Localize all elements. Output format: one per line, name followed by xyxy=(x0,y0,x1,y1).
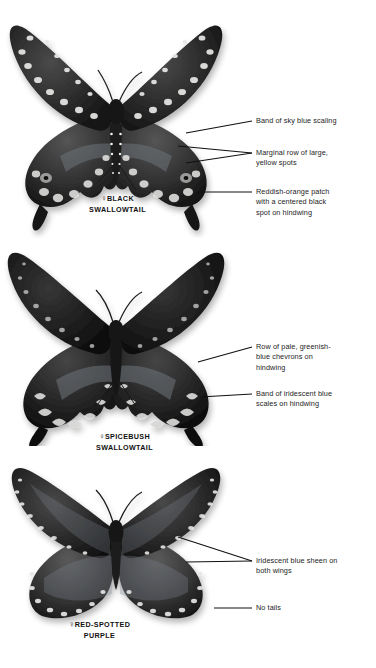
tail-left xyxy=(29,426,48,446)
thorax xyxy=(108,320,124,344)
species-name-line1: SPICEBUSH xyxy=(105,432,150,441)
butterfly-identification-plate: ♀BLACK SWALLOWTAIL xyxy=(0,0,376,668)
abdomen xyxy=(111,542,121,590)
callout-blue-sheen: Iridescent blue sheen on both wings xyxy=(256,556,374,577)
caption-spicebush-swallowtail: ♀SPICEBUSH SWALLOWTAIL xyxy=(62,432,187,453)
tail-left xyxy=(32,204,48,231)
tail-right xyxy=(184,204,200,231)
hindwing-orange-patch-right xyxy=(180,173,192,183)
callout-no-tails: No tails xyxy=(256,603,374,613)
thorax xyxy=(109,520,124,544)
callout-chevrons: Row of pale, greenish- blue chevrons on … xyxy=(256,342,374,373)
hindwing-orange-patch-left xyxy=(40,173,52,183)
caption-red-spotted-purple: ♀RED-SPOTTED PURPLE xyxy=(32,620,167,641)
species-name-line1: BLACK xyxy=(107,194,134,203)
callout-iridescent-band: Band of iridescent blue scales on hindwi… xyxy=(256,389,374,410)
callout-yellow-spots: Marginal row of large, yellow spots xyxy=(256,148,374,169)
callout-orange-patch: Reddish-orange patch with a centered bla… xyxy=(256,187,374,218)
specimen-spicebush-swallowtail xyxy=(0,240,232,446)
species-name-line2: SWALLOWTAIL xyxy=(89,205,146,214)
red-spotted-purple-body-and-wings xyxy=(12,468,221,618)
species-name-line2: SWALLOWTAIL xyxy=(96,443,153,452)
species-name-line1: RED-SPOTTED xyxy=(75,620,130,629)
thorax xyxy=(108,99,124,125)
species-name-line2: PURPLE xyxy=(84,631,115,640)
antenna-left xyxy=(96,490,113,522)
spicebush-body-and-wings xyxy=(8,253,225,446)
callout-blue-scaling: Band of sky blue scaling xyxy=(256,116,374,126)
specimen-red-spotted-purple xyxy=(0,458,232,638)
caption-black-swallowtail: ♀BLACK SWALLOWTAIL xyxy=(60,194,175,215)
